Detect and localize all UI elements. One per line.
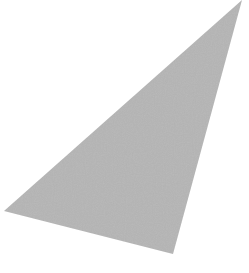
triangle-graphic bbox=[0, 0, 249, 273]
canvas bbox=[0, 0, 249, 273]
gray-triangle bbox=[4, 0, 242, 254]
